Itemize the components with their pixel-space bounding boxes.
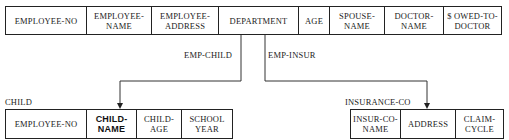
field-child-age: CHILD- AGE: [137, 110, 182, 138]
field-employee-name: EMPLOYEE- NAME: [87, 7, 152, 34]
field-employee-no: EMPLOYEE-NO: [6, 7, 87, 34]
emp-insur-label: EMP-INSUR: [268, 50, 316, 60]
field-school-year: SCHOOL YEAR: [182, 110, 232, 138]
field-owed-to-doctor: $ OWED-TO- DOCTOR: [444, 7, 501, 34]
field-employee-no: EMPLOYEE-NO: [6, 110, 87, 138]
insurance-co-record: INSUR-CO- NAMEADDRESSCLAIM- CYCLE: [350, 109, 504, 139]
employee-record: EMPLOYEE-NOEMPLOYEE- NAMEEMPLOYEE- ADDRE…: [5, 6, 502, 35]
field-employee-address: EMPLOYEE- ADDRESS: [152, 7, 219, 34]
field-age: AGE: [299, 7, 330, 34]
field-insur-co-name: INSUR-CO- NAME: [351, 110, 401, 138]
insurance-record-title: INSURANCE-CO: [345, 97, 411, 107]
field-address: ADDRESS: [401, 110, 456, 138]
emp-child-label: EMP-CHILD: [184, 50, 232, 60]
field-doctor-name: DOCTOR- NAME: [385, 7, 444, 34]
child-record: EMPLOYEE-NOCHILD- NAMECHILD- AGESCHOOL Y…: [5, 109, 233, 139]
child-record-title: CHILD: [5, 97, 32, 107]
field-department: DEPARTMENT: [219, 7, 299, 34]
field-claim-cycle: CLAIM- CYCLE: [456, 110, 503, 138]
field-child-name: CHILD- NAME: [87, 110, 137, 138]
field-spouse-name: SPOUSE- NAME: [330, 7, 385, 34]
